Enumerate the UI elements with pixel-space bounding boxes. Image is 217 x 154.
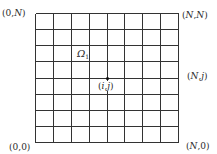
corner-label-top-right: (N,N)	[182, 10, 208, 20]
corner-label-bottom-left: (0,0)	[9, 142, 30, 152]
corner-label-bottom-right: (N,0)	[186, 141, 210, 151]
paren-close: )	[110, 81, 114, 91]
side-label-right: (N,j)	[187, 71, 208, 81]
paren-close: )	[22, 8, 26, 18]
paren-close: )	[206, 141, 210, 151]
paren-close: )	[204, 10, 208, 20]
paren-close: )	[27, 142, 31, 152]
corner-label-top-left: (0,N)	[2, 8, 26, 18]
coord-b: N	[196, 10, 204, 20]
coord-b: N	[14, 8, 22, 18]
node-label-ij: (i,j)	[97, 81, 115, 91]
omega-subscript: 1	[85, 53, 89, 60]
grid-diagram	[0, 0, 217, 154]
region-label-omega-1: Ω1	[77, 49, 89, 62]
node-point-ij	[106, 77, 109, 80]
paren-close: )	[204, 71, 208, 81]
